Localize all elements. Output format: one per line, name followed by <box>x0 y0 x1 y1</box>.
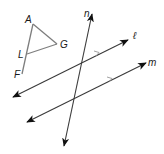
label-point-f: F <box>14 69 21 80</box>
line-n <box>64 14 92 146</box>
line-m <box>27 63 146 122</box>
label-point-a: A <box>24 14 32 25</box>
label-point-l: L <box>18 49 24 60</box>
label-line-m: m <box>148 57 156 68</box>
label-point-g: G <box>60 39 68 50</box>
geometry-diagram: A G L F n ℓ m <box>0 0 164 154</box>
label-line-l: ℓ <box>132 30 137 41</box>
line-l <box>13 40 128 97</box>
triangle-agl <box>22 24 57 74</box>
segment-af <box>22 24 33 74</box>
segment-ag <box>33 24 57 44</box>
label-line-n: n <box>84 8 90 19</box>
parallel-mark-m <box>107 77 112 82</box>
segment-gl <box>27 44 57 54</box>
